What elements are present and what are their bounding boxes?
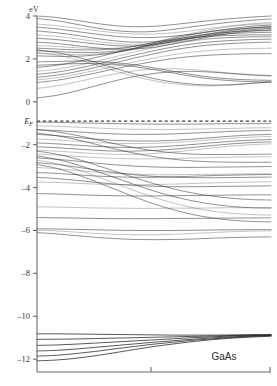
band-curve [37,167,271,174]
y-axis-tick-label: –10 [16,311,30,321]
band-curve [37,35,271,68]
y-axis-tick-label: –4 [21,183,31,193]
band-curve [37,122,271,124]
material-label: GaAs [211,351,236,362]
band-curve [37,218,271,219]
band-curve [37,207,271,209]
band-curve [37,30,271,49]
band-curve [37,177,271,186]
band-structure-plot: 420–2–4–6–8–10–12 eV EF GaAs [0,0,277,386]
band-curve [37,164,271,221]
band-curve [37,158,271,167]
y-axis-tick-label: –12 [16,354,30,364]
band-curve [37,156,271,208]
band-curve [37,151,271,200]
y-axis-tick-label: 2 [26,54,30,64]
y-axis-tick-label: –2 [21,140,31,150]
band-curve [37,233,271,240]
band-curve [37,37,271,55]
band-curve [37,182,271,185]
y-axis-unit-label: eV [29,5,39,14]
band-curve [37,137,271,144]
band-curve [37,194,271,196]
band-curve [37,50,271,85]
band-structure-figure: 420–2–4–6–8–10–12 eV EF GaAs [0,0,277,386]
band-curve [37,144,271,155]
y-axis-tick-label: –8 [21,268,31,278]
band-curve [37,126,271,130]
band-curve [37,130,271,155]
fermi-level-label: EF [23,116,33,127]
y-axis-tick-label: –6 [21,225,31,235]
band-curves-group [37,16,271,361]
y-axis-ticks-group: 420–2–4–6–8–10–12 [16,11,37,364]
band-curve [37,334,271,335]
band-curve [37,130,271,135]
band-curve [37,229,271,231]
y-axis-tick-label: 0 [26,97,30,107]
